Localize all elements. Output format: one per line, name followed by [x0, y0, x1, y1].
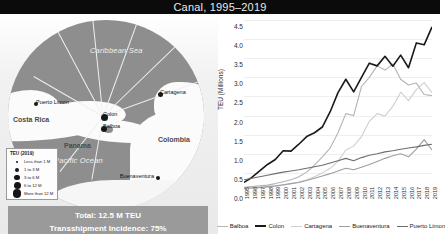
legend-circle-icon [10, 168, 24, 172]
chart-legend-item[interactable]: Buenaventura [339, 223, 389, 229]
x-axis-tick-label: 2000 [283, 187, 289, 199]
x-axis-tick-label: 2016 [409, 187, 415, 199]
y-axis-tick-label: 0.5 [234, 175, 243, 182]
x-axis-tick-label: 2003 [307, 187, 313, 199]
legend-circle-icon [10, 182, 24, 189]
legend-line-swatch [397, 226, 408, 227]
x-axis-tick-label: 1998 [268, 187, 274, 199]
x-axis-tick-label: 2005 [322, 187, 328, 199]
x-axis-tick-label: 2019 [432, 187, 438, 199]
y-axis-tick-label: 3.0 [234, 80, 243, 87]
chart-legend-label: Puerto Limon [410, 223, 445, 229]
x-axis-tick-label: 2014 [393, 187, 399, 199]
x-axis-tick-label: 2015 [401, 187, 407, 199]
x-axis-ticks: 1995199619971998199920002001200220032004… [244, 193, 432, 219]
legend-line-swatch [291, 226, 302, 227]
chart-legend-item[interactable]: Cartagena [291, 223, 332, 229]
map-legend-item: More than 12 M [10, 190, 54, 198]
x-axis-tick-label: 2011 [369, 187, 375, 199]
y-axis-tick-label: 0.0 [234, 195, 243, 202]
map-legend-title: TEU (2019) [10, 151, 54, 156]
map-legend-item-label: More than 12 M [24, 191, 53, 196]
y-axis-ticks: 0.00.51.01.52.02.53.03.54.04.5 [221, 20, 243, 192]
chart-legend-label: Buenaventura [352, 223, 389, 229]
total-teu-text: Total: 12.5 M TEU [75, 209, 141, 222]
series-line-buenaventura [244, 140, 432, 189]
country-label-costa-rica: Costa Rica [13, 116, 49, 123]
x-axis-tick-label: 2006 [330, 187, 336, 199]
legend-line-swatch [255, 225, 266, 227]
map-legend-item: Less than 1 M [10, 158, 54, 166]
x-axis-tick-label: 2002 [299, 187, 305, 199]
map-legend-item: 1 to 3 M [10, 166, 54, 174]
y-axis-tick-label: 4.5 [234, 23, 243, 30]
x-axis-tick-label: 2007 [338, 187, 344, 199]
x-axis-tick-label: 2018 [424, 187, 430, 199]
country-label-colombia: Colombia [158, 136, 190, 143]
legend-circle-icon [10, 189, 24, 198]
city-label: Balboa [103, 123, 120, 129]
plot-area [244, 20, 432, 192]
city-label: Colon [103, 111, 117, 117]
page-title: Canal, 1995–2019 [0, 0, 440, 14]
x-axis-tick-label: 2001 [291, 187, 297, 199]
x-axis-tick-label: 1999 [275, 187, 281, 199]
x-axis-tick-label: 1995 [244, 187, 250, 199]
x-axis-tick-label: 1997 [260, 187, 266, 199]
sea-label-caribbean: Caribbean Sea [90, 46, 143, 55]
chart-legend-label: Colon [268, 223, 284, 229]
legend-circle-icon [10, 175, 24, 181]
y-axis-tick-label: 2.0 [234, 118, 243, 125]
city-label: Buenaventura [120, 173, 154, 179]
series-line-balboa [244, 64, 432, 187]
chart-legend: BalboaColonCartagenaBuenaventuraPuerto L… [224, 220, 438, 232]
x-axis-tick-label: 2009 [354, 187, 360, 199]
x-axis-tick-label: 2017 [416, 187, 422, 199]
chart-legend-item[interactable]: Colon [255, 223, 284, 229]
x-axis-tick-label: 2004 [315, 187, 321, 199]
city-dot-icon [156, 176, 160, 180]
chart-legend-item[interactable]: Puerto Limon [397, 223, 445, 229]
y-axis-tick-label: 1.5 [234, 137, 243, 144]
y-axis-tick-label: 1.0 [234, 156, 243, 163]
transshipment-incidence-text: Transshipment Incidence: 75% [50, 222, 167, 234]
city-label: Cartagena [160, 89, 186, 95]
legend-line-swatch [339, 226, 350, 227]
x-axis-tick-label: 2012 [377, 187, 383, 199]
chart-legend-item[interactable]: Balboa [217, 223, 249, 229]
legend-circle-icon [10, 161, 24, 163]
legend-line-swatch [217, 226, 228, 227]
y-axis-tick-label: 3.5 [234, 61, 243, 68]
map-legend-item-label: 6 to 12 M [24, 183, 41, 188]
chart-legend-label: Cartagena [304, 223, 332, 229]
map-panel: Caribbean Sea Pacific Ocean Costa Rica P… [0, 14, 218, 234]
map-legend-item: 3 to 6 M [10, 174, 54, 182]
x-axis-tick-label: 2008 [346, 187, 352, 199]
country-label-panama: Panama [64, 142, 91, 149]
chart-legend-label: Balboa [230, 223, 249, 229]
summary-banner: Total: 12.5 M TEU Transshipment Incidenc… [8, 206, 208, 234]
x-axis-tick-label: 2010 [362, 187, 368, 199]
series-lines [244, 20, 432, 192]
series-line-colon [244, 27, 432, 183]
x-axis-tick-label: 2013 [385, 187, 391, 199]
map-legend-item-label: 1 to 3 M [24, 167, 39, 172]
city-label: Puerto Limon [36, 99, 69, 105]
y-axis-tick-label: 2.5 [234, 99, 243, 106]
y-axis-tick-label: 4.0 [234, 42, 243, 49]
series-line-cartagena [244, 83, 432, 189]
sea-label-pacific: Pacific Ocean [54, 156, 103, 165]
map-legend-item-label: 3 to 6 M [24, 175, 39, 180]
chart-panel: TEU (Millions) 0.00.51.01.52.02.53.03.54… [218, 14, 440, 234]
map-legend-item-label: Less than 1 M [24, 159, 50, 164]
map-legend: TEU (2019) Less than 1 M 1 to 3 M 3 to 6… [6, 148, 58, 200]
x-axis-tick-label: 1996 [252, 187, 258, 199]
